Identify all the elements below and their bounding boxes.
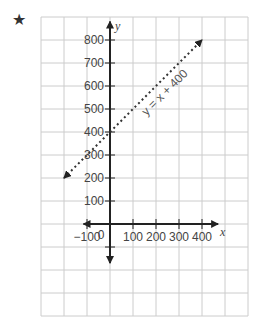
x-tick-label: 200 bbox=[146, 230, 166, 244]
x-axis-label: x bbox=[219, 225, 226, 239]
equation-label: y = x + 400 bbox=[139, 66, 191, 118]
x-tick-label: 400 bbox=[192, 230, 212, 244]
y-tick-label: 800 bbox=[84, 33, 104, 47]
y-tick-label: 700 bbox=[84, 56, 104, 70]
y-tick-label: 300 bbox=[84, 148, 104, 162]
y-tick-label: 100 bbox=[84, 194, 104, 208]
origin-label: 0 bbox=[98, 228, 105, 242]
x-tick-label: 300 bbox=[169, 230, 189, 244]
coordinate-plane: −100100200300400100200300400500600700800… bbox=[0, 0, 260, 325]
y-tick-label: 600 bbox=[84, 79, 104, 93]
y-tick-label: 400 bbox=[84, 125, 104, 139]
y-tick-label: 500 bbox=[84, 102, 104, 116]
y-axis-label: y bbox=[114, 19, 121, 33]
x-tick-label: 100 bbox=[123, 230, 143, 244]
y-tick-label: 200 bbox=[84, 171, 104, 185]
